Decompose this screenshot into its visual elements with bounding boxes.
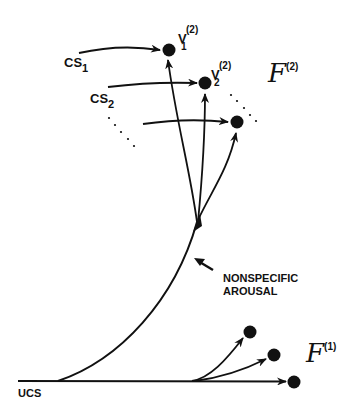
v2-label: V 2 (2) — [211, 66, 220, 82]
arousal-pathway — [58, 222, 197, 381]
field1-superscript: (1) — [324, 341, 336, 352]
ucs-label: UCS — [18, 387, 41, 400]
cs2-arrow — [108, 83, 197, 87]
arousal-label-line2: AROUSAL — [223, 285, 298, 298]
cs3-arrow — [143, 120, 228, 124]
ucs-branch-to-u1 — [192, 338, 243, 381]
v2-superscript: (2) — [219, 61, 231, 71]
branch-junction — [193, 214, 202, 232]
cs2-subscript: 2 — [108, 98, 114, 110]
cs1-subscript: 1 — [82, 62, 88, 74]
cs1-label: CS1 — [64, 56, 88, 69]
branch-to-v1 — [168, 60, 197, 222]
arousal-label-line1: NONSPECIFIC — [223, 272, 298, 285]
node-v2 — [199, 77, 212, 90]
cs1-base: CS — [64, 55, 82, 70]
field2-symbol: F — [268, 58, 286, 88]
v1-label: V 1 (2) — [178, 30, 187, 46]
field2-superscript: (2) — [286, 61, 298, 72]
arousal-label: NONSPECIFIC AROUSAL — [223, 272, 298, 298]
node-u1 — [244, 326, 257, 339]
node-u3 — [288, 376, 301, 389]
cs1-arrow — [79, 48, 160, 53]
cs2-label: CS2 — [90, 92, 114, 105]
v1-superscript: (2) — [186, 25, 198, 35]
cs-ellipsis-dots — [108, 117, 135, 147]
field2-label: F(2) — [268, 60, 298, 86]
v2-subscript: 2 — [214, 78, 220, 88]
node-u2 — [268, 349, 281, 362]
node-v1 — [163, 44, 176, 57]
branch-to-v2 — [198, 94, 205, 222]
node-v3 — [231, 116, 244, 129]
field1-label: F(1) — [306, 340, 336, 366]
ucs-branch-to-u2 — [195, 359, 266, 381]
field1-symbol: F — [306, 338, 324, 368]
cs2-base: CS — [90, 91, 108, 106]
v1-subscript: 1 — [181, 42, 187, 52]
